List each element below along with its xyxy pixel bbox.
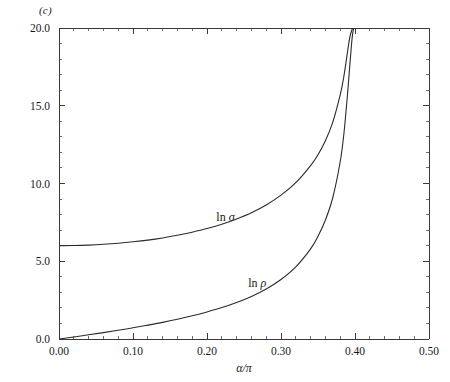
y-tick-label: 5.0: [36, 255, 51, 267]
x-tick-label: 0.20: [197, 345, 217, 357]
ticks-group: [59, 28, 429, 339]
curve-ln-sigma: [59, 28, 355, 246]
x-axis-label: α/π: [236, 361, 253, 375]
plot-area: 0.05.010.015.020.00.000.100.200.300.400.…: [0, 0, 450, 382]
x-tick-label: 0.40: [345, 345, 365, 357]
x-tick-label: 0.10: [123, 345, 143, 357]
axes-group: [59, 28, 429, 339]
curve-label-ln-sigma: ln σ: [216, 210, 235, 224]
y-tick-label: 15.0: [30, 100, 50, 112]
y-tick-label: 10.0: [30, 178, 50, 190]
y-tick-label: 20.0: [30, 22, 50, 34]
tick-labels-group: 0.05.010.015.020.00.000.100.200.300.400.…: [30, 22, 439, 357]
x-tick-label: 0.00: [49, 345, 69, 357]
x-tick-label: 0.30: [271, 345, 291, 357]
curves-group: [59, 28, 355, 339]
curve-ln-rho: [59, 28, 355, 339]
x-tick-label: 0.50: [419, 345, 439, 357]
curve-label-ln-rho: ln ρ: [248, 276, 266, 290]
figure-panel-c: (c) 0.05.010.015.020.00.000.100.200.300.…: [0, 0, 450, 382]
y-tick-label: 0.0: [36, 333, 51, 345]
